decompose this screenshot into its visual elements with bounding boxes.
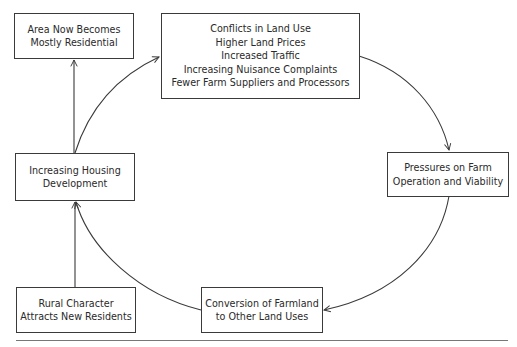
node-conversion: Conversion of Farmland to Other Land Use… [201,287,323,333]
bottom-divider [16,340,508,341]
node-pressures: Pressures on Farm Operation and Viabilit… [387,152,509,197]
node-label-line: Increasing Housing [29,164,121,178]
arrow-housing-to-conflicts [75,57,159,153]
node-label-line: Increased Traffic [221,49,300,63]
node-label-line: Pressures on Farm [404,161,492,175]
node-label-line: Conversion of Farmland [205,297,319,311]
node-area-residential: Area Now Becomes Mostly Residential [14,13,134,59]
node-label-line: Area Now Becomes [28,23,121,37]
node-label-line: Conflicts in Land Use [210,22,311,36]
node-housing: Increasing Housing Development [15,153,135,201]
node-label-line: Operation and Viability [393,175,503,189]
node-label-line: to Other Land Uses [216,310,308,324]
node-label-line: Attracts New Residents [20,310,131,324]
node-label-line: Rural Character [38,297,113,311]
node-conflicts: Conflicts in Land Use Higher Land Prices… [161,13,360,99]
node-label-line: Mostly Residential [30,36,117,50]
node-label-line: Increasing Nuisance Complaints [184,63,338,77]
arrow-conflicts-to-pressures [359,56,449,150]
node-label-line: Higher Land Prices [216,36,306,50]
arrow-pressures-to-conversion [324,196,449,310]
node-label-line: Development [43,177,108,191]
node-label-line: Fewer Farm Suppliers and Processors [171,76,349,90]
node-rural-character: Rural Character Attracts New Residents [16,287,136,333]
